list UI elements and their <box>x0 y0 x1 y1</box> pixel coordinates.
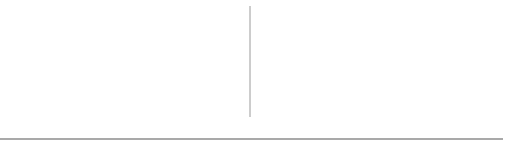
diagram-canvas <box>0 0 527 149</box>
